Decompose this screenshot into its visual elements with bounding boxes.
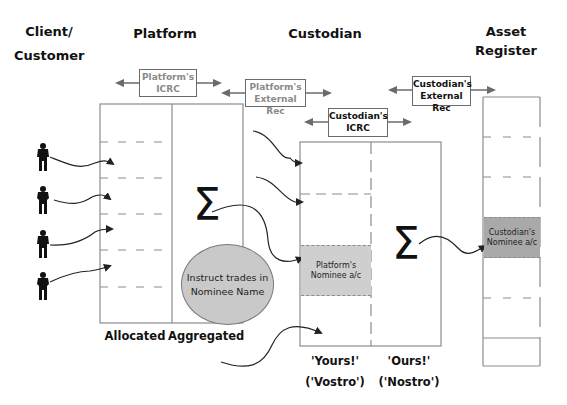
platform-icrc-line2: ICRC bbox=[140, 83, 196, 95]
yours-label: 'Yours!' bbox=[298, 352, 372, 370]
platform-sum-icon: Σ bbox=[193, 183, 221, 227]
custodian-icrc-box: Custodian's ICRC bbox=[328, 108, 388, 137]
platform-icrc-line1: Platform's bbox=[140, 71, 196, 83]
allocated-label: Allocated bbox=[100, 327, 170, 345]
custodian-nominee-line2: Nominee a/c bbox=[487, 238, 537, 248]
custodian-nominee-account: Custodian's Nominee a/c bbox=[484, 217, 540, 258]
custodian-external-rec-box: Custodian's External Rec bbox=[412, 76, 471, 106]
platform-nominee-line2: Nominee a/c bbox=[311, 271, 361, 281]
custodian-external-rec-line2: External Rec bbox=[413, 90, 470, 114]
platform-nominee-line1: Platform's bbox=[311, 261, 361, 271]
businessman-icon bbox=[37, 143, 49, 171]
platform-external-rec-line2: External Rec bbox=[246, 93, 305, 117]
instruct-trades-bubble: Instruct trades in Nominee Name bbox=[181, 244, 274, 325]
custodian-external-rec-line1: Custodian's bbox=[413, 78, 470, 90]
platform-external-rec-box: Platform's External Rec bbox=[245, 79, 306, 107]
vostro-label: 'Yours!' ('Vostro') bbox=[298, 352, 372, 391]
custodian-icrc-line2: ICRC bbox=[329, 122, 387, 134]
nostro-label: 'Ours!' ('Nostro') bbox=[372, 352, 446, 391]
aggregated-label: Aggregated bbox=[168, 327, 244, 345]
custodian-nominee-line1: Custodian's bbox=[487, 228, 537, 238]
businesswoman-icon bbox=[37, 186, 49, 214]
platform-external-rec-line1: Platform's bbox=[246, 81, 305, 93]
instruct-trades-line2: Nominee Name bbox=[187, 285, 268, 299]
vostro-sub-label: ('Vostro') bbox=[298, 373, 372, 391]
platform-nominee-account: Platform's Nominee a/c bbox=[301, 245, 371, 296]
businesswoman-icon bbox=[37, 272, 49, 300]
instruct-trades-line1: Instruct trades in bbox=[187, 271, 268, 285]
custodian-sum-icon: Σ bbox=[392, 222, 420, 266]
custodian-icrc-line1: Custodian's bbox=[329, 110, 387, 122]
nostro-sub-label: ('Nostro') bbox=[372, 373, 446, 391]
client-arrows bbox=[50, 157, 113, 282]
platform-icrc-box: Platform's ICRC bbox=[139, 69, 197, 97]
diagram-lines bbox=[0, 0, 567, 405]
businessman-icon bbox=[37, 230, 49, 258]
ours-label: 'Ours!' bbox=[372, 352, 446, 370]
client-figures bbox=[37, 143, 49, 300]
